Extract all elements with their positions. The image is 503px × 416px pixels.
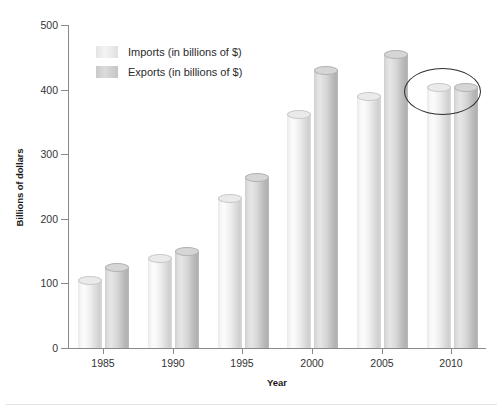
y-tick-label: 500	[31, 20, 58, 30]
x-tick-label: 1990	[143, 357, 203, 369]
bar-1995-imports	[218, 199, 242, 348]
x-tick-mark	[312, 348, 313, 354]
bar-body	[357, 97, 381, 348]
bar-body	[287, 114, 311, 348]
legend-label: Exports (in billions of $)	[128, 66, 242, 78]
y-tick-label: 0	[31, 343, 58, 353]
bar-1990-imports	[148, 258, 172, 348]
x-tick-mark	[451, 348, 452, 354]
y-tick-mark	[61, 283, 69, 284]
bar-body	[427, 88, 451, 348]
y-tick-mark	[61, 154, 69, 155]
y-tick-label: 100	[31, 278, 58, 288]
bar-2010-imports	[427, 88, 451, 348]
bar-body	[218, 199, 242, 348]
bar-body	[175, 251, 199, 348]
bar-top-ellipse	[175, 247, 199, 256]
x-tick-label: 1995	[212, 357, 272, 369]
bar-1995-exports	[245, 177, 269, 348]
bar-chart: 5004003002001000 Billions of dollars 198…	[0, 0, 503, 416]
legend-label: Imports (in billions of $)	[128, 46, 242, 58]
annotation-ellipse-2010	[404, 68, 481, 115]
x-tick-label: 2000	[282, 357, 342, 369]
bar-body	[314, 70, 338, 348]
y-tick-mark	[61, 348, 69, 349]
x-tick-label: 2010	[421, 357, 481, 369]
imports-swatch	[96, 46, 118, 58]
y-tick-label: 300	[31, 149, 58, 159]
bar-2005-imports	[357, 97, 381, 348]
bar-body	[105, 268, 129, 348]
bar-1985-exports	[105, 268, 129, 348]
y-axis-title: Billions of dollars	[14, 133, 25, 243]
x-tick-mark	[242, 348, 243, 354]
y-tick-mark	[61, 90, 69, 91]
bar-2010-exports	[454, 88, 478, 348]
y-axis-line	[68, 25, 69, 349]
bar-1990-exports	[175, 251, 199, 348]
bar-body	[384, 55, 408, 348]
bar-body	[78, 280, 102, 348]
y-tick-mark	[61, 25, 69, 26]
y-tick-label: 400	[31, 85, 58, 95]
bar-top-ellipse	[287, 110, 311, 119]
x-tick-label: 2005	[352, 357, 412, 369]
x-axis-title: Year	[68, 377, 486, 388]
bar-body	[245, 177, 269, 348]
y-tick-label: 200	[31, 214, 58, 224]
x-tick-mark	[382, 348, 383, 354]
chart-legend: Imports (in billions of $)Exports (in bi…	[96, 44, 242, 84]
x-axis-line	[68, 348, 486, 349]
bar-1985-imports	[78, 280, 102, 348]
bar-2000-exports	[314, 70, 338, 348]
footer-divider	[6, 404, 497, 405]
bar-body	[454, 88, 478, 348]
x-tick-mark	[173, 348, 174, 354]
legend-item: Exports (in billions of $)	[96, 64, 242, 80]
x-tick-mark	[103, 348, 104, 354]
bar-2005-exports	[384, 55, 408, 348]
bar-top-ellipse	[314, 66, 338, 75]
bar-top-ellipse	[245, 173, 269, 182]
legend-item: Imports (in billions of $)	[96, 44, 242, 60]
bar-2000-imports	[287, 114, 311, 348]
y-tick-mark	[61, 219, 69, 220]
bar-top-ellipse	[148, 254, 172, 263]
x-tick-label: 1985	[73, 357, 133, 369]
exports-swatch	[96, 66, 118, 78]
bar-top-ellipse	[78, 276, 102, 285]
bar-body	[148, 258, 172, 348]
